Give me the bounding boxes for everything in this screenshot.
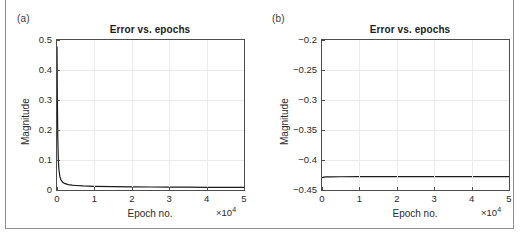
x-tick-label: 1 (79, 193, 109, 204)
gridline-vertical (169, 40, 170, 190)
x-tick-label: 3 (154, 193, 184, 204)
gridline-horizontal (57, 160, 244, 161)
y-tick-mark (56, 40, 60, 41)
panel-b-ylabel: Magnitude (279, 98, 290, 145)
gridline-horizontal (57, 100, 244, 101)
y-tick-mark (321, 70, 325, 71)
gridline-vertical (359, 40, 360, 190)
x-tick-mark (434, 187, 435, 191)
gridline-vertical (207, 40, 208, 190)
panel-a-ylabel: Magnitude (20, 98, 31, 145)
gridline-vertical (132, 40, 133, 190)
series-line-error (322, 177, 509, 178)
gridline-vertical (397, 40, 398, 190)
panel-b-curve (322, 40, 510, 191)
y-tick-mark (321, 100, 325, 101)
x-tick-label: 4 (192, 193, 222, 204)
x-tick-label: 2 (382, 193, 412, 204)
panel-b-plot-area (321, 39, 510, 191)
y-tick-label: 0.2 (10, 124, 52, 135)
y-tick-mark (56, 160, 60, 161)
x-tick-mark (169, 187, 170, 191)
y-tick-label: 0.1 (10, 154, 52, 165)
panel-a-label: (a) (17, 13, 30, 24)
y-tick-label: 0.3 (10, 94, 52, 105)
y-tick-mark (56, 100, 60, 101)
y-tick-mark (56, 130, 60, 131)
y-tick-label: −0.4 (275, 154, 317, 165)
gridline-horizontal (322, 70, 509, 71)
y-tick-label: 0.4 (10, 64, 52, 75)
x-tick-label: 2 (117, 193, 147, 204)
x-tick-label: 3 (419, 193, 449, 204)
x-tick-mark (359, 187, 360, 191)
panel-a-x-exponent-prefix: ×10 (216, 207, 232, 218)
gridline-vertical (94, 40, 95, 190)
x-tick-label: 1 (344, 193, 374, 204)
y-tick-mark (56, 70, 60, 71)
x-tick-label: 0 (307, 193, 337, 204)
y-tick-label: 0.5 (10, 34, 52, 45)
panel-a: (a) Error vs. epochs 00.10.20.30.40.5012… (0, 0, 258, 235)
panel-a-x-exponent: ×104 (216, 206, 236, 218)
panel-b-xlabel: Epoch no. (345, 208, 485, 219)
series-line-error (57, 47, 244, 188)
y-tick-mark (321, 130, 325, 131)
panel-b-label: (b) (272, 13, 285, 24)
x-tick-mark (244, 187, 245, 191)
panel-a-x-exponent-power: 4 (232, 206, 236, 213)
gridline-vertical (434, 40, 435, 190)
panel-a-title: Error vs. epochs (55, 24, 245, 35)
x-tick-mark (322, 187, 323, 191)
gridline-horizontal (322, 130, 509, 131)
gridline-vertical (472, 40, 473, 190)
x-tick-mark (57, 187, 58, 191)
panel-a-xlabel: Epoch no. (80, 208, 220, 219)
x-tick-mark (472, 187, 473, 191)
y-tick-label: −0.25 (275, 64, 317, 75)
x-tick-mark (397, 187, 398, 191)
x-tick-label: 5 (494, 193, 521, 204)
y-tick-mark (321, 40, 325, 41)
panel-a-curve (57, 40, 245, 191)
x-tick-mark (509, 187, 510, 191)
x-tick-mark (207, 187, 208, 191)
gridline-horizontal (322, 100, 509, 101)
panel-b-x-exponent-power: 4 (497, 206, 501, 213)
panel-b-x-exponent-prefix: ×10 (481, 207, 497, 218)
x-tick-label: 4 (457, 193, 487, 204)
panel-b: (b) Error vs. epochs −0.45−0.4−0.35−0.3−… (255, 0, 521, 235)
y-tick-mark (321, 160, 325, 161)
gridline-horizontal (57, 70, 244, 71)
x-tick-mark (132, 187, 133, 191)
x-tick-mark (94, 187, 95, 191)
panel-a-plot-area (56, 39, 245, 191)
gridline-horizontal (322, 160, 509, 161)
panel-b-title: Error vs. epochs (315, 24, 505, 35)
panel-b-x-exponent: ×104 (481, 206, 501, 218)
x-tick-label: 0 (42, 193, 72, 204)
gridline-horizontal (57, 130, 244, 131)
y-tick-label: −0.2 (275, 34, 317, 45)
